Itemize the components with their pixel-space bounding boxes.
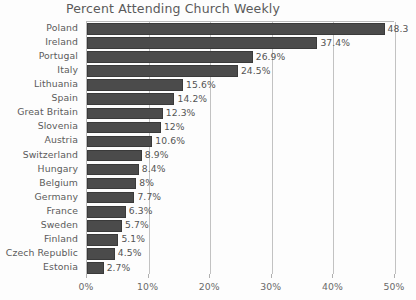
x-tick-label-30%: 30% — [260, 281, 281, 292]
bar[interactable] — [87, 108, 163, 120]
bar[interactable] — [87, 248, 115, 260]
bar-row: 5.7% — [87, 219, 394, 233]
bar-row: 24.5% — [87, 64, 394, 78]
x-tick-mark — [394, 274, 395, 278]
category-label-czech-republic: Czech Republic — [6, 246, 78, 260]
bars-container: 48.337.4%26.9%24.5%15.6%14.2%12.3%12%10.… — [87, 22, 394, 274]
bar[interactable] — [87, 178, 136, 190]
bar[interactable] — [87, 220, 122, 232]
x-tick-label-50%: 50% — [384, 281, 405, 292]
bar-row: 8.9% — [87, 149, 394, 163]
bar-value-label: 15.6% — [186, 79, 216, 92]
bar[interactable] — [87, 79, 183, 91]
bar-value-label: 8.4% — [142, 163, 166, 176]
bar[interactable] — [87, 150, 142, 162]
x-tick-label-40%: 40% — [322, 281, 343, 292]
bar-value-label: 24.5% — [241, 65, 271, 78]
category-label-hungary: Hungary — [38, 162, 78, 176]
bar-value-label: 6.3% — [129, 205, 153, 218]
bar[interactable] — [87, 122, 161, 134]
bar-row: 8% — [87, 177, 394, 191]
bar-value-label: 12% — [164, 121, 185, 134]
bar-row: 5.1% — [87, 233, 394, 247]
bar-value-label: 4.5% — [118, 247, 142, 260]
bar[interactable] — [87, 65, 238, 77]
bar-row: 26.9% — [87, 50, 394, 64]
chart-title: Percent Attending Church Weekly — [66, 1, 280, 16]
bar-value-label: 8.9% — [145, 149, 169, 162]
bar-value-label: 5.7% — [125, 219, 149, 232]
bar-row: 12% — [87, 120, 394, 134]
bar-value-label: 2.7% — [107, 262, 131, 275]
x-tick-mark — [271, 274, 272, 278]
bar-row: 10.6% — [87, 134, 394, 148]
bar[interactable] — [87, 23, 385, 35]
bar-value-label: 12.3% — [166, 107, 196, 120]
category-label-france: France — [46, 204, 78, 218]
bar[interactable] — [87, 206, 126, 218]
bar[interactable] — [87, 93, 174, 105]
bar-row: 6.3% — [87, 205, 394, 219]
x-axis: 0%10%20%30%40%50% — [86, 274, 394, 300]
category-label-poland: Poland — [46, 21, 78, 35]
category-label-portugal: Portugal — [39, 49, 78, 63]
bar-value-label: 10.6% — [155, 135, 185, 148]
category-label-belgium: Belgium — [39, 176, 78, 190]
category-label-austria: Austria — [44, 133, 78, 147]
x-tick-mark — [209, 274, 210, 278]
category-label-sweden: Sweden — [41, 218, 78, 232]
category-label-spain: Spain — [52, 91, 78, 105]
category-label-great-britain: Great Britain — [17, 105, 78, 119]
category-label-finland: Finland — [44, 232, 78, 246]
x-tick-mark — [86, 274, 87, 278]
bar-chart: Percent Attending Church Weekly 48.337.4… — [0, 0, 416, 300]
x-tick-label-20%: 20% — [199, 281, 220, 292]
bar-value-label: 14.2% — [177, 93, 207, 106]
bar-row: 4.5% — [87, 247, 394, 261]
gridline-50% — [395, 22, 396, 274]
bar-row: 12.3% — [87, 106, 394, 120]
bar[interactable] — [87, 192, 134, 204]
x-tick-label-0%: 0% — [79, 281, 94, 292]
bar[interactable] — [87, 262, 104, 274]
category-label-lithuania: Lithuania — [34, 77, 78, 91]
bar-row: 15.6% — [87, 78, 394, 92]
x-tick-mark — [148, 274, 149, 278]
category-label-germany: Germany — [35, 190, 78, 204]
bar-row: 7.7% — [87, 191, 394, 205]
bar-row: 37.4% — [87, 36, 394, 50]
bar-row: 14.2% — [87, 92, 394, 106]
bar-value-label: 26.9% — [256, 51, 286, 64]
bar[interactable] — [87, 136, 152, 148]
x-tick-mark — [332, 274, 333, 278]
bar-value-label: 7.7% — [137, 191, 161, 204]
category-label-ireland: Ireland — [45, 35, 78, 49]
bar-value-label: 37.4% — [320, 37, 350, 50]
plot-area: 48.337.4%26.9%24.5%15.6%14.2%12.3%12%10.… — [86, 21, 394, 274]
category-label-slovenia: Slovenia — [38, 119, 78, 133]
bar-value-label: 8% — [139, 177, 154, 190]
bar-row: 8.4% — [87, 163, 394, 177]
bar[interactable] — [87, 37, 317, 49]
bar-row: 2.7% — [87, 261, 394, 275]
category-axis-labels: PolandIrelandPortugalItalyLithuaniaSpain… — [0, 21, 82, 274]
bar-row: 48.3 — [87, 22, 394, 36]
bar[interactable] — [87, 51, 253, 63]
x-tick-label-10%: 10% — [137, 281, 158, 292]
bar-value-label: 48.3 — [388, 23, 409, 36]
category-label-switzerland: Switzerland — [23, 148, 78, 162]
category-label-italy: Italy — [57, 63, 78, 77]
category-label-estonia: Estonia — [43, 260, 78, 274]
bar[interactable] — [87, 164, 139, 176]
bar[interactable] — [87, 234, 118, 246]
bar-value-label: 5.1% — [121, 233, 145, 246]
